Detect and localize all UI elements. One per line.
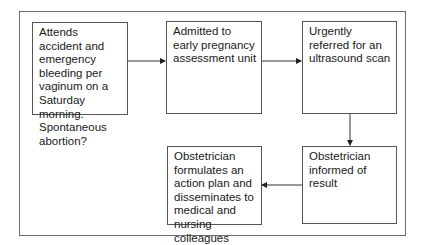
node-attends-a-and-e: Attends accident and emergency bleeding … [32, 22, 128, 115]
node-admitted-epau: Admitted to early pregnancy assessment u… [166, 21, 262, 114]
node-ultrasound-referral: Urgently referred for an ultrasound scan [302, 21, 397, 114]
node-text: Attends accident and emergency bleeding … [39, 26, 108, 147]
node-text: Admitted to early pregnancy assessment u… [173, 25, 256, 64]
node-text: Urgently referred for an ultrasound scan [309, 25, 390, 64]
node-text: Obstetrician informed of result [309, 150, 370, 189]
node-obstetrician-informed: Obstetrician informed of result [302, 146, 397, 224]
node-action-plan: Obstetrician formulates an action plan a… [167, 146, 262, 225]
